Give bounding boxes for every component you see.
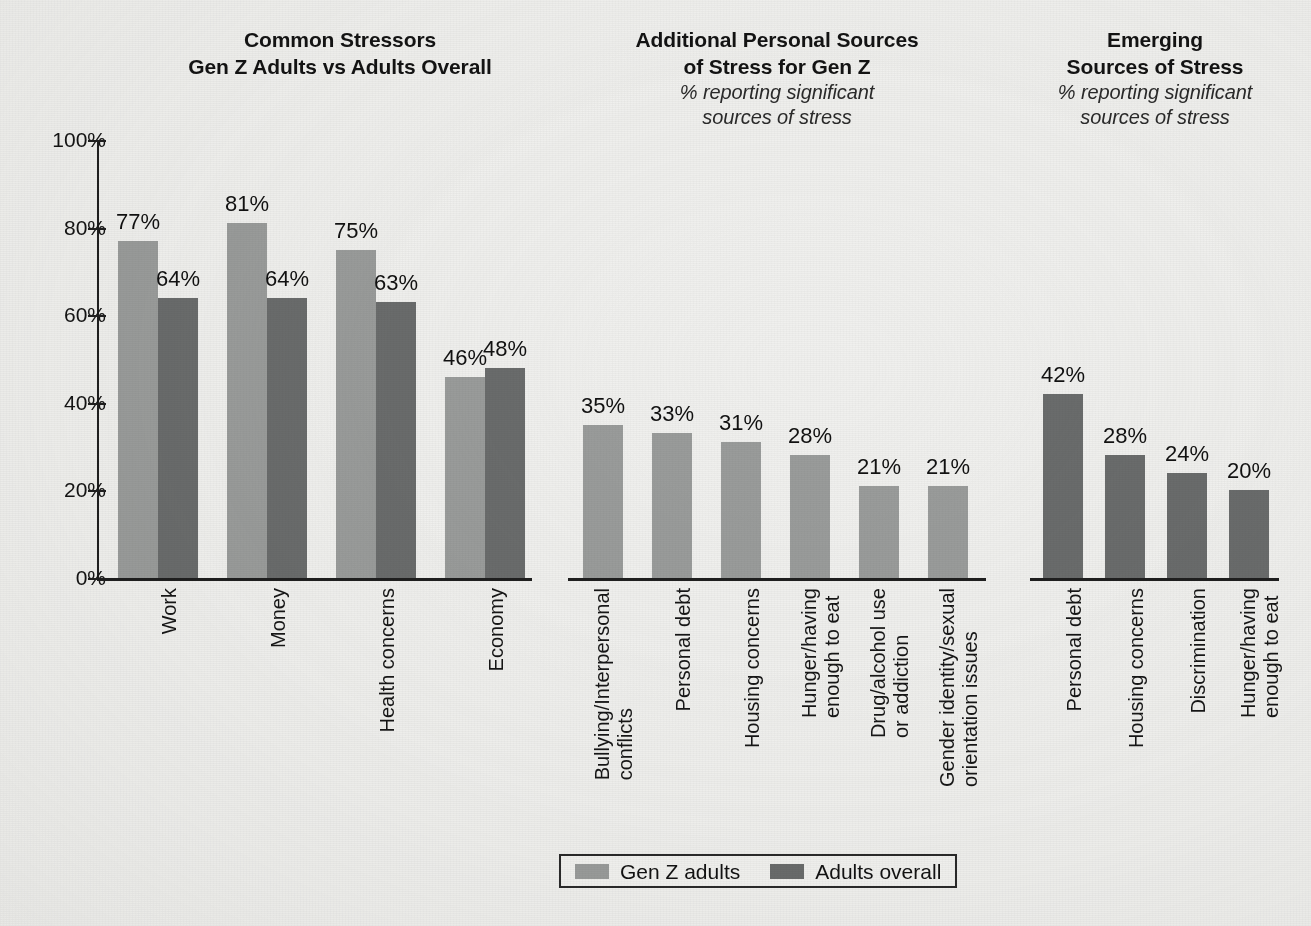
bar <box>336 250 376 579</box>
bar-value-label: 28% <box>788 425 832 447</box>
x-axis-category-label: Health concerns <box>376 588 399 733</box>
bar <box>790 455 830 578</box>
x-axis-category-label: Economy <box>485 588 508 671</box>
bar <box>118 241 158 578</box>
y-axis-tick-mark <box>88 490 106 492</box>
bar-value-label: 81% <box>225 193 269 215</box>
bar <box>227 223 267 578</box>
x-axis-baseline-panel1 <box>97 578 532 581</box>
y-axis-tick-20: 20% <box>0 490 106 492</box>
y-axis-tick-100: 100% <box>0 140 106 142</box>
bar-value-label: 63% <box>374 272 418 294</box>
legend-label: Gen Z adults <box>620 861 740 882</box>
x-axis-category-label: Hunger/having enough to eat <box>1237 588 1283 718</box>
bar <box>376 302 416 578</box>
bar-value-label: 48% <box>483 338 527 360</box>
y-axis-tick-0: 0% <box>0 578 106 580</box>
x-axis-category-label: Housing concerns <box>741 588 764 748</box>
panel3-subtitle-line1: % reporting significant <box>1010 80 1300 105</box>
x-axis-category-label: Bullying/Interpersonal conflicts <box>591 588 637 780</box>
bar-value-label: 42% <box>1041 364 1085 386</box>
x-axis-category-label: Hunger/having enough to eat <box>798 588 844 718</box>
bar-value-label: 77% <box>116 211 160 233</box>
bar-value-label: 33% <box>650 403 694 425</box>
y-axis-tick-mark <box>88 403 106 405</box>
y-axis-line <box>97 140 99 579</box>
x-axis-category-label: Personal debt <box>672 588 695 711</box>
bar <box>583 425 623 578</box>
bar-value-label: 20% <box>1227 460 1271 482</box>
bar-value-label: 28% <box>1103 425 1147 447</box>
bar-value-label: 75% <box>334 220 378 242</box>
y-axis-tick-60: 60% <box>0 315 106 317</box>
x-axis-category-label: Work <box>158 588 181 634</box>
legend-swatch <box>575 864 609 879</box>
bar-value-label: 35% <box>581 395 625 417</box>
bar-value-label: 46% <box>443 347 487 369</box>
x-axis-category-label: Housing concerns <box>1125 588 1148 748</box>
x-axis-baseline-panel2 <box>568 578 986 581</box>
panel-title-additional-personal-sources: Additional Personal Sources of Stress fo… <box>592 26 962 130</box>
y-axis-tick-mark <box>88 228 106 230</box>
legend-item: Adults overall <box>770 861 941 882</box>
legend-label: Adults overall <box>815 861 941 882</box>
panel2-subtitle-line1: % reporting significant <box>592 80 962 105</box>
chart-figure: Common Stressors Gen Z Adults vs Adults … <box>0 0 1311 926</box>
bar <box>267 298 307 578</box>
panel2-title-line2: of Stress for Gen Z <box>683 55 870 78</box>
x-axis-baseline-panel3 <box>1030 578 1279 581</box>
bar <box>485 368 525 578</box>
y-axis-tick-mark <box>88 315 106 317</box>
bar <box>445 377 485 578</box>
bar <box>652 433 692 578</box>
y-axis-tick-mark <box>88 140 106 142</box>
bar <box>859 486 899 578</box>
bar-value-label: 31% <box>719 412 763 434</box>
bar <box>721 442 761 578</box>
bar-value-label: 64% <box>265 268 309 290</box>
x-axis-category-label: Personal debt <box>1063 588 1086 711</box>
bar-value-label: 21% <box>857 456 901 478</box>
bar-value-label: 21% <box>926 456 970 478</box>
bar <box>1105 455 1145 578</box>
y-axis-tick-40: 40% <box>0 403 106 405</box>
panel3-title-line1: Emerging <box>1107 28 1203 51</box>
bar <box>1167 473 1207 578</box>
panel2-subtitle-line2: sources of stress <box>592 105 962 130</box>
x-axis-category-label: Gender identity/sexual orientation issue… <box>936 588 982 787</box>
legend-item: Gen Z adults <box>575 861 740 882</box>
x-axis-category-label: Money <box>267 588 290 648</box>
panel-title-emerging-sources: Emerging Sources of Stress % reporting s… <box>1010 26 1300 130</box>
panel1-title-line2: Gen Z Adults vs Adults Overall <box>188 55 492 78</box>
bar-value-label: 24% <box>1165 443 1209 465</box>
bar-value-label: 64% <box>156 268 200 290</box>
x-axis-category-label: Drug/alcohol use or addiction <box>867 588 913 738</box>
panel-title-common-stressors: Common Stressors Gen Z Adults vs Adults … <box>150 26 530 80</box>
y-axis-tick-80: 80% <box>0 228 106 230</box>
legend: Gen Z adultsAdults overall <box>559 854 957 888</box>
bar <box>1043 394 1083 578</box>
legend-swatch <box>770 864 804 879</box>
x-axis-category-label: Discrimination <box>1187 588 1210 714</box>
panel1-title-line1: Common Stressors <box>244 28 436 51</box>
bar <box>1229 490 1269 578</box>
bar <box>928 486 968 578</box>
panel2-title-line1: Additional Personal Sources <box>635 28 918 51</box>
panel3-subtitle-line2: sources of stress <box>1010 105 1300 130</box>
panel3-title-line2: Sources of Stress <box>1067 55 1244 78</box>
bar <box>158 298 198 578</box>
